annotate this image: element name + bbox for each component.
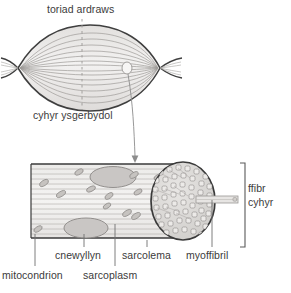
label-muscle-fibre: ffibr cyhyr xyxy=(248,182,273,209)
label-sarcolemma: sarcolema xyxy=(122,249,171,261)
muscle-fibre-bracket xyxy=(240,163,245,247)
label-sarcoplasm: sarcoplasm xyxy=(83,269,137,281)
myofibril-rod xyxy=(196,196,238,203)
label-muscle-fibre-line2: cyhyr xyxy=(248,196,273,210)
label-skeletal-muscle: cyhyr ysgerbydol xyxy=(33,109,113,121)
figure-canvas: toriad ardraws cyhyr ysgerbydol mitocond… xyxy=(0,0,291,293)
leader-arrowhead xyxy=(132,156,139,164)
label-myofibril: myoffibril xyxy=(186,249,228,261)
skeletal-muscle-belly-group xyxy=(1,25,182,111)
nucleus-upper xyxy=(90,167,136,188)
highlighted-fibre-marker xyxy=(122,62,132,74)
label-muscle-fibre-line1: ffibr xyxy=(248,182,273,196)
nucleus-lower xyxy=(64,218,108,238)
label-cross-section: toriad ardraws xyxy=(47,3,114,15)
label-nucleus: cnewyllyn xyxy=(55,249,101,261)
muscle-belly-shape xyxy=(18,25,160,111)
muscle-fibre-group xyxy=(31,162,238,240)
label-mitochondrion: mitocondrion xyxy=(2,269,63,281)
